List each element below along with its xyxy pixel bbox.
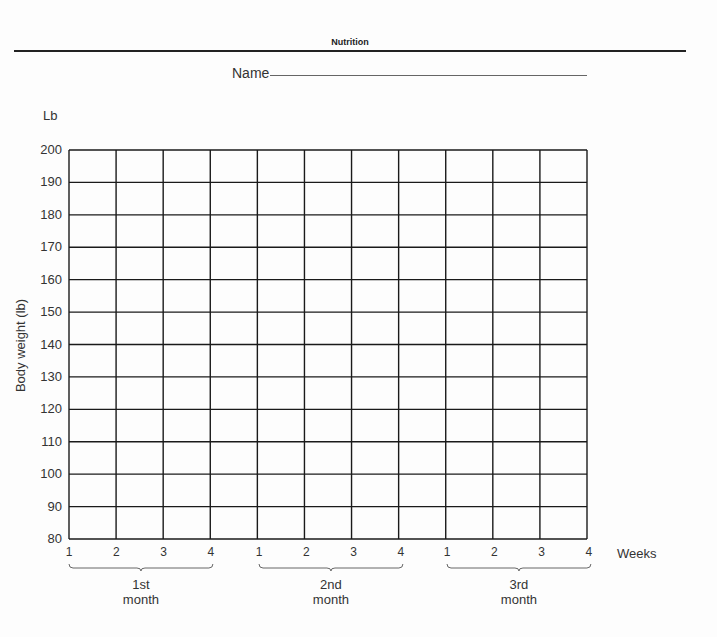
month-brace [259, 564, 403, 571]
weight-grid [0, 0, 717, 637]
month-brace [69, 564, 213, 571]
month-brace [447, 564, 591, 571]
